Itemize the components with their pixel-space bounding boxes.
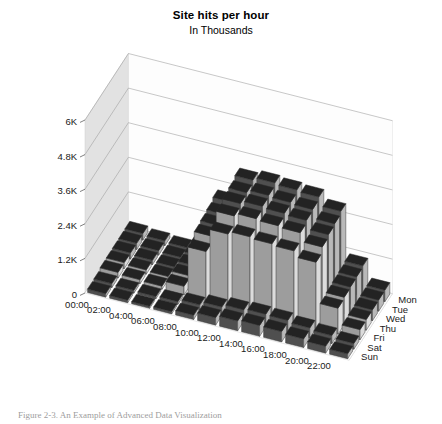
- x-axis-tick-label: 00:00: [65, 299, 89, 310]
- y-axis-tick-label: 3.6K: [57, 185, 77, 196]
- z-axis-tick-label: Wed: [386, 313, 405, 324]
- chart-facet: [188, 247, 206, 301]
- gridline: [80, 293, 85, 295]
- x-axis-tick-label: 16:00: [241, 343, 265, 354]
- y-axis-tick-label: 1.2K: [57, 254, 77, 265]
- x-axis-tick-label: 20:00: [285, 355, 309, 366]
- x-axis-tick-label: 18:00: [263, 349, 287, 360]
- x-axis-tick-label: 14:00: [219, 338, 243, 349]
- x-axis-tick-label: 06:00: [131, 315, 155, 326]
- gridline: [80, 120, 85, 122]
- x-axis-tick-label: 12:00: [197, 332, 221, 343]
- x-axis-tick-label: 04:00: [109, 310, 133, 321]
- z-axis-tick-label: Mon: [398, 294, 416, 305]
- z-axis-tick-label: Tue: [392, 304, 408, 315]
- z-axis-tick-label: Fri: [374, 332, 385, 343]
- chart-plot-area: 01.2K2.4K3.6K4.8K6K00:0002:0004:0006:000…: [0, 0, 442, 424]
- z-axis-tick-label: Thu: [380, 323, 396, 334]
- x-axis-tick-label: 02:00: [87, 304, 111, 315]
- y-axis-tick-label: 4.8K: [57, 151, 77, 162]
- gridline: [80, 155, 85, 157]
- y-axis-tick-label: 6K: [65, 116, 77, 127]
- gridline: [80, 224, 85, 226]
- figure-caption: Figure 2-3. An Example of Advanced Data …: [18, 410, 438, 420]
- x-axis-tick-label: 22:00: [307, 360, 331, 371]
- y-axis-tick-label: 2.4K: [57, 220, 77, 231]
- gridline: [80, 258, 85, 260]
- z-axis-tick-label: Sun: [361, 351, 378, 362]
- chart-container: Site hits per hour In Thousands 01.2K2.4…: [0, 0, 442, 424]
- gridline: [80, 189, 85, 191]
- x-axis-tick-label: 08:00: [153, 321, 177, 332]
- z-axis-tick-label: Sat: [367, 342, 382, 353]
- x-axis-tick-label: 10:00: [175, 327, 199, 338]
- chart-facet: [210, 229, 228, 306]
